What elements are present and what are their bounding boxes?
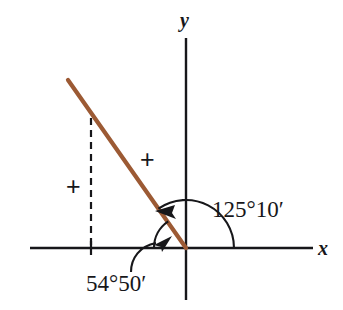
x-axis-label: x	[318, 238, 328, 258]
terminal-side-ray	[68, 80, 186, 248]
diagram-canvas	[0, 0, 343, 310]
reference-angle-label: 54°50′	[86, 272, 146, 295]
y-axis-label: y	[180, 10, 189, 30]
plus-sign-lower: +	[66, 174, 81, 199]
angle-diagram: y x 125°10′ 54°50′ + +	[0, 0, 343, 310]
plus-sign-upper: +	[140, 147, 155, 172]
reference-angle-arrowhead	[154, 236, 172, 252]
standard-angle-label: 125°10′	[212, 198, 284, 221]
